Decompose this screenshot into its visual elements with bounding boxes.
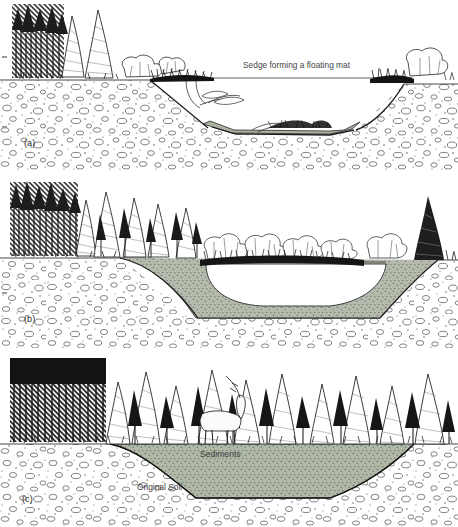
sedge-mat-right-a [370,48,454,83]
shrubs-left-a [122,55,185,77]
conifer-forest-a [12,4,118,79]
panel-c [0,356,458,527]
shrub-thicket-b [200,234,364,266]
scan-edge-mark [2,126,7,128]
panel-a-artwork [0,0,458,170]
panel-c-artwork [0,356,458,527]
panel-b-artwork [0,178,458,348]
scan-edge-mark [2,56,7,58]
shrubs-right-b [367,196,456,260]
scan-edge-mark [2,292,7,294]
conifer-forest-b [10,181,202,258]
deer-antlers [226,376,240,398]
panel-a [0,0,458,170]
pond-succession-figure: Sedge forming a floating mat Sediments O… [0,0,458,527]
panel-b [0,178,458,348]
